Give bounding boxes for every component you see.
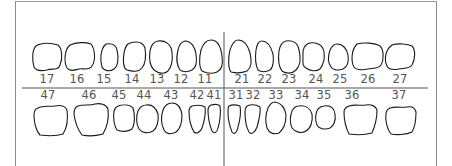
tooth-label-44: 44 — [136, 90, 151, 102]
tooth-42-icon[interactable] — [189, 105, 205, 133]
tooth-26-icon[interactable] — [352, 43, 383, 70]
tooth-23-icon[interactable] — [279, 41, 300, 73]
tooth-label-35: 35 — [316, 90, 331, 102]
tooth-46-icon[interactable] — [74, 104, 108, 136]
tooth-label-36: 36 — [344, 90, 359, 102]
tooth-label-26: 26 — [360, 74, 375, 86]
tooth-31-icon[interactable] — [228, 105, 240, 134]
tooth-24-icon[interactable] — [303, 43, 324, 71]
tooth-label-11: 11 — [197, 74, 212, 86]
tooth-33-icon[interactable] — [266, 102, 286, 134]
tooth-label-41: 41 — [206, 90, 221, 102]
tooth-label-13: 13 — [149, 74, 164, 86]
tooth-32-icon[interactable] — [245, 105, 260, 133]
tooth-label-12: 12 — [173, 74, 188, 86]
tooth-34-icon[interactable] — [291, 106, 313, 133]
tooth-36-icon[interactable] — [344, 105, 377, 135]
tooth-16-icon[interactable] — [65, 43, 95, 71]
tooth-label-15: 15 — [96, 74, 111, 86]
tooth-45-icon[interactable] — [114, 105, 135, 131]
tooth-43-icon[interactable] — [162, 103, 182, 134]
tooth-label-16: 16 — [69, 74, 84, 86]
tooth-25-icon[interactable] — [329, 44, 349, 70]
tooth-label-43: 43 — [163, 90, 178, 102]
tooth-35-icon[interactable] — [316, 106, 336, 129]
tooth-label-31: 31 — [228, 90, 243, 102]
tooth-41-icon[interactable] — [208, 104, 220, 132]
tooth-21-icon[interactable] — [229, 40, 251, 73]
tooth-17-icon[interactable] — [33, 43, 62, 70]
tooth-label-34: 34 — [294, 90, 309, 102]
tooth-label-42: 42 — [189, 90, 204, 102]
tooth-label-46: 46 — [81, 90, 96, 102]
tooth-47-icon[interactable] — [34, 106, 67, 136]
tooth-label-21: 21 — [234, 74, 249, 86]
tooth-label-45: 45 — [111, 90, 126, 102]
tooth-label-32: 32 — [245, 90, 260, 102]
tooth-13-icon[interactable] — [150, 41, 173, 73]
tooth-14-icon[interactable] — [123, 42, 145, 71]
tooth-label-27: 27 — [392, 74, 407, 86]
tooth-15-icon[interactable] — [101, 44, 118, 71]
tooth-22-icon[interactable] — [256, 41, 274, 72]
tooth-11-icon[interactable] — [200, 40, 223, 73]
tooth-label-23: 23 — [281, 74, 296, 86]
tooth-label-47: 47 — [40, 90, 55, 102]
tooth-label-33: 33 — [268, 90, 283, 102]
tooth-label-37: 37 — [391, 90, 406, 102]
tooth-label-22: 22 — [257, 74, 272, 86]
tooth-label-25: 25 — [332, 74, 347, 86]
tooth-37-icon[interactable] — [386, 107, 416, 135]
tooth-27-icon[interactable] — [385, 44, 414, 70]
dental-chart — [0, 0, 452, 166]
tooth-label-14: 14 — [124, 74, 139, 86]
tooth-44-icon[interactable] — [137, 105, 159, 133]
tooth-label-24: 24 — [308, 74, 323, 86]
tooth-label-17: 17 — [39, 74, 54, 86]
tooth-12-icon[interactable] — [177, 41, 196, 72]
